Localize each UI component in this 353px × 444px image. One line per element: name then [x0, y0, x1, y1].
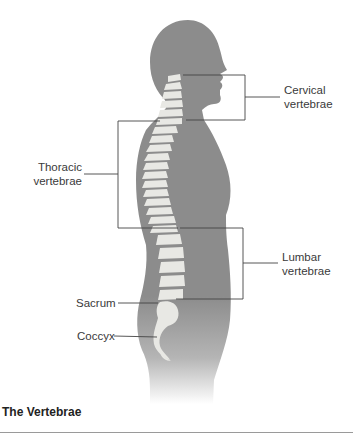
label-thoracic-line2: vertebrae [32, 174, 82, 188]
lumbar-vertebrae [156, 234, 185, 300]
label-thoracic-line1: Thoracic [32, 160, 82, 174]
label-cervical: Cervical vertebrae [284, 83, 333, 111]
divider [0, 432, 353, 433]
label-lumbar-line1: Lumbar [282, 250, 331, 264]
figure-caption: The Vertebrae [2, 405, 81, 419]
label-lumbar: Lumbar vertebrae [282, 250, 331, 278]
label-cervical-line1: Cervical [284, 83, 333, 97]
label-cervical-line2: vertebrae [284, 97, 333, 111]
label-thoracic: Thoracic vertebrae [32, 160, 82, 188]
label-lumbar-line2: vertebrae [282, 264, 331, 278]
label-coccyx: Coccyx [77, 329, 115, 343]
vertebrae-diagram [0, 0, 353, 444]
label-sacrum: Sacrum [76, 296, 116, 310]
